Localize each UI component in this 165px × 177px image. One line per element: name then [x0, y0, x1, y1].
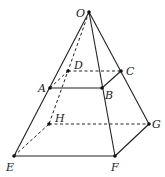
edge-OF — [89, 12, 115, 156]
label-H: H — [54, 112, 65, 125]
label-O: O — [76, 7, 85, 20]
label-F: F — [110, 161, 119, 174]
point-F — [113, 154, 117, 158]
label-E: E — [5, 161, 14, 174]
point-H — [47, 122, 51, 126]
point-G — [147, 122, 151, 126]
point-A — [48, 86, 52, 90]
dashed-edge-OH — [49, 12, 89, 124]
point-E — [12, 154, 16, 158]
dashed-edge-EH — [14, 124, 49, 156]
point-B — [100, 86, 104, 90]
point-D — [66, 69, 70, 73]
label-B: B — [104, 89, 113, 102]
label-A: A — [37, 82, 46, 95]
edge-OG — [89, 12, 149, 124]
label-C: C — [126, 65, 135, 78]
label-G: G — [152, 118, 161, 131]
diagram-canvas: O A B C D E F G H — [0, 0, 165, 177]
edge-OE — [14, 12, 89, 156]
point-C — [119, 69, 123, 73]
edge-FG — [115, 124, 149, 156]
point-O — [87, 10, 91, 14]
edge-BC — [102, 71, 121, 88]
label-D: D — [73, 59, 83, 72]
